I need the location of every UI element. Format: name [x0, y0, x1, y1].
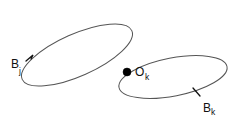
label-ok: O k — [135, 65, 150, 82]
leader-line-bj — [26, 55, 33, 61]
label-bj-base: B — [11, 57, 19, 71]
ellipse-region-bk — [115, 48, 230, 106]
label-bk-base: B — [203, 101, 211, 115]
ellipse-intersection-figure: B j O k B k — [0, 0, 232, 119]
label-bk-subscript: k — [211, 107, 216, 117]
label-ok-subscript: k — [145, 72, 150, 82]
label-bk: B k — [203, 101, 216, 117]
intersection-node-dot — [123, 68, 131, 76]
label-bj: B j — [11, 57, 21, 76]
label-ok-base: O — [135, 65, 144, 79]
label-bj-subscript: j — [18, 66, 21, 76]
diagram-canvas: B j O k B k — [0, 0, 232, 119]
